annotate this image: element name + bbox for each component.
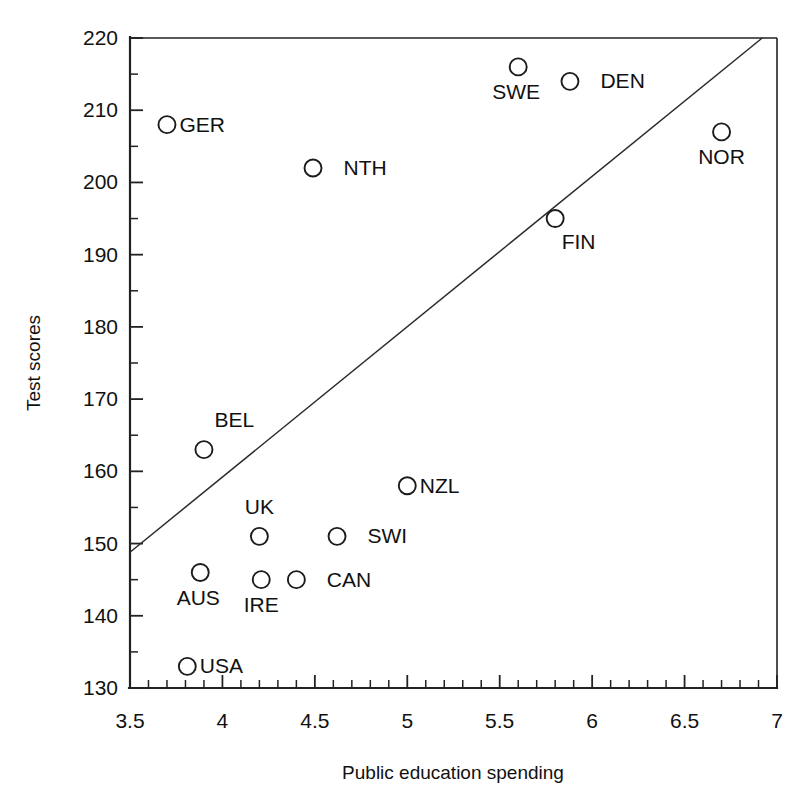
x-axis-title: Public education spending — [342, 762, 564, 783]
point-marker-swe — [510, 58, 527, 75]
y-tick-label: 180 — [83, 315, 118, 338]
data-points: GERNTHSWEDENNORFINBELNZLUKSWIAUSIRECANUS… — [158, 58, 744, 677]
point-marker-ire — [253, 571, 270, 588]
point-marker-can — [288, 571, 305, 588]
data-point-uk: UK — [245, 495, 274, 545]
y-tick-label: 130 — [83, 676, 118, 699]
axis-ticks — [130, 38, 777, 688]
point-marker-nzl — [399, 477, 416, 494]
x-tick-label: 3.5 — [115, 709, 144, 732]
y-tick-label: 190 — [83, 243, 118, 266]
y-tick-label: 150 — [83, 532, 118, 555]
point-marker-aus — [192, 564, 209, 581]
point-label-bel: BEL — [214, 408, 254, 431]
point-label-ire: IRE — [244, 593, 279, 616]
data-point-nzl: NZL — [399, 474, 460, 497]
y-tick-label: 210 — [83, 98, 118, 121]
data-point-nor: NOR — [698, 123, 745, 168]
data-point-bel: BEL — [195, 408, 254, 458]
data-point-swe: SWE — [492, 58, 540, 103]
y-tick-label: 200 — [83, 170, 118, 193]
x-tick-label: 4.5 — [300, 709, 329, 732]
data-point-nth: NTH — [305, 156, 387, 179]
point-marker-nor — [713, 123, 730, 140]
y-tick-label: 170 — [83, 387, 118, 410]
y-tick-label: 160 — [83, 459, 118, 482]
point-marker-ger — [158, 116, 175, 133]
x-tick-label: 5 — [401, 709, 413, 732]
point-marker-bel — [195, 441, 212, 458]
point-label-aus: AUS — [177, 586, 220, 609]
point-label-ger: GER — [179, 113, 225, 136]
x-tick-label: 6 — [586, 709, 598, 732]
y-tick-label: 140 — [83, 604, 118, 627]
point-marker-swi — [329, 528, 346, 545]
y-tick-label: 220 — [83, 26, 118, 49]
point-label-den: DEN — [600, 69, 644, 92]
data-point-usa: USA — [179, 654, 243, 677]
x-tick-label: 4 — [217, 709, 229, 732]
point-label-nzl: NZL — [420, 474, 460, 497]
data-point-can: CAN — [288, 568, 371, 591]
point-marker-uk — [251, 528, 268, 545]
x-tick-label: 6.5 — [670, 709, 699, 732]
point-label-nor: NOR — [698, 145, 745, 168]
point-marker-fin — [547, 210, 564, 227]
point-marker-nth — [305, 160, 322, 177]
data-point-ger: GER — [158, 113, 225, 136]
data-point-aus: AUS — [177, 564, 220, 609]
point-marker-usa — [179, 658, 196, 675]
x-tick-label: 5.5 — [485, 709, 514, 732]
data-point-ire: IRE — [244, 571, 279, 616]
point-label-uk: UK — [245, 495, 274, 518]
point-label-can: CAN — [327, 568, 371, 591]
data-point-swi: SWI — [329, 524, 408, 547]
point-label-usa: USA — [200, 654, 243, 677]
point-marker-den — [561, 73, 578, 90]
scatter-plot-figure: 1301401501601701801902002102203.544.555.… — [0, 0, 806, 810]
chart-canvas: 1301401501601701801902002102203.544.555.… — [0, 0, 806, 810]
point-label-swi: SWI — [368, 524, 408, 547]
point-label-nth: NTH — [344, 156, 387, 179]
data-point-den: DEN — [561, 69, 644, 92]
plot-frame — [129, 37, 777, 688]
y-axis-title: Test scores — [23, 315, 44, 411]
point-label-swe: SWE — [492, 80, 540, 103]
point-label-fin: FIN — [562, 230, 596, 253]
x-tick-label: 7 — [771, 709, 783, 732]
data-point-fin: FIN — [547, 210, 596, 253]
